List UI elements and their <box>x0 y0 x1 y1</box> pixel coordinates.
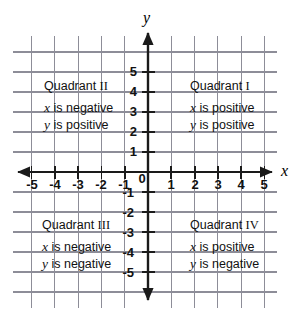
x-tick-label-5: 5 <box>254 178 274 191</box>
quadrant-4-x-statement: is positive <box>196 240 254 254</box>
quadrant-4-annotation: Quadrant IV x is positive y is negative <box>190 218 259 272</box>
x-axis-label: x <box>281 163 288 179</box>
quadrant-3-title-prefix: Quadrant <box>42 218 98 232</box>
quadrant-2-title-numeral: II <box>100 79 108 93</box>
x-tick-label-1: 1 <box>161 178 181 191</box>
quadrant-4-title-prefix: Quadrant <box>190 218 246 232</box>
quadrant-3-title-numeral: III <box>98 218 111 232</box>
y-tick-label-2: 2 <box>115 125 137 138</box>
quadrant-3-y-statement: is negative <box>48 257 111 271</box>
y-tick-label-neg5: -5 <box>112 266 134 279</box>
quadrant-3-title: Quadrant III <box>42 218 111 233</box>
x-tick-label-2: 2 <box>185 178 205 191</box>
x-tick-label-neg5: -5 <box>22 178 42 191</box>
x-tick-label-neg4: -4 <box>45 178 65 191</box>
y-tick-label-4: 4 <box>115 85 137 98</box>
quadrant-2-y-rule: y is positive <box>44 117 113 133</box>
quadrant-1-title-numeral: I <box>246 79 250 93</box>
quadrant-4-title: Quadrant IV <box>190 218 259 233</box>
quadrant-3-x-rule: x is negative <box>42 239 111 255</box>
y-axis-label: y <box>143 10 150 26</box>
quadrant-1-y-statement: is positive <box>196 118 254 132</box>
y-tick-label-neg4: -4 <box>112 246 134 259</box>
quadrant-4-y-rule: y is negative <box>190 256 259 272</box>
x-tick-label-4: 4 <box>231 178 251 191</box>
quadrant-1-title-prefix: Quadrant <box>190 79 246 93</box>
x-tick-label-neg2: -2 <box>91 178 111 191</box>
quadrant-2-x-statement: is negative <box>50 101 113 115</box>
quadrant-4-title-numeral: IV <box>246 218 259 232</box>
y-tick-label-5: 5 <box>115 65 137 78</box>
quadrant-2-x-rule: x is negative <box>44 100 113 116</box>
quadrant-4-y-statement: is negative <box>196 257 259 271</box>
quadrant-1-x-statement: is positive <box>196 101 254 115</box>
y-tick-label-neg2: -2 <box>112 206 134 219</box>
quadrant-3-annotation: Quadrant III x is negative y is negative <box>42 218 111 272</box>
quadrant-2-title: Quadrant II <box>44 79 113 94</box>
quadrant-2-title-prefix: Quadrant <box>44 79 100 93</box>
y-tick-label-neg1: -1 <box>112 186 134 199</box>
y-tick-label-neg3: -3 <box>112 226 134 239</box>
y-tick-label-1: 1 <box>115 145 137 158</box>
quadrant-1-annotation: Quadrant I x is positive y is positive <box>190 79 254 133</box>
quadrant-1-y-rule: y is positive <box>190 117 254 133</box>
quadrant-1-x-rule: x is positive <box>190 100 254 116</box>
quadrant-3-y-rule: y is negative <box>42 256 111 272</box>
quadrant-2-annotation: Quadrant II x is negative y is positive <box>44 79 113 133</box>
coordinate-plane-figure: x y -5 -4 -3 -2 -1 0 1 2 3 4 5 5 4 3 2 1… <box>0 0 304 317</box>
x-tick-label-neg3: -3 <box>68 178 88 191</box>
quadrant-3-x-statement: is negative <box>48 240 111 254</box>
y-tick-label-3: 3 <box>115 105 137 118</box>
quadrant-4-x-rule: x is positive <box>190 239 259 255</box>
x-tick-label-3: 3 <box>208 178 228 191</box>
origin-label: 0 <box>132 172 152 185</box>
quadrant-1-title: Quadrant I <box>190 79 254 94</box>
quadrant-2-y-statement: is positive <box>50 118 108 132</box>
